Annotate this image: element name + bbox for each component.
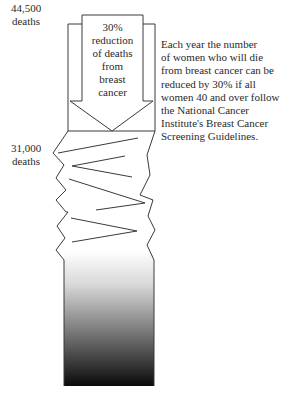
reduced-value: 31,000 — [4, 142, 48, 155]
arrow-line: cancer — [82, 86, 143, 99]
description-line: the National Cancer — [161, 104, 287, 117]
description-line: Each year the number — [161, 38, 287, 51]
description-line: Screening Guidelines. — [161, 130, 287, 143]
arrow-line: reduction — [82, 34, 143, 47]
top-value-label: 44,500 deaths — [4, 2, 48, 28]
top-value: 44,500 — [4, 2, 48, 15]
description-line: Institute's Breast Cancer — [161, 117, 287, 130]
description-text: Each year the number of women who will d… — [161, 38, 287, 144]
reduced-value-label: 31,000 deaths — [4, 142, 48, 168]
arrow-line: breast — [82, 73, 143, 86]
arrow-line: 30% — [82, 21, 143, 34]
description-line: reduced by 30% if all — [161, 78, 287, 91]
arrow-line: of deaths — [82, 47, 143, 60]
top-unit: deaths — [4, 15, 48, 28]
description-line: from breast cancer can be — [161, 64, 287, 77]
arrow-line: from — [82, 60, 143, 73]
description-line: of women who will die — [161, 51, 287, 64]
arrow-caption: 30% reduction of deaths from breast canc… — [82, 21, 143, 99]
gradient-column — [64, 250, 154, 386]
reduced-unit: deaths — [4, 155, 48, 168]
description-line: women 40 and over follow — [161, 91, 287, 104]
